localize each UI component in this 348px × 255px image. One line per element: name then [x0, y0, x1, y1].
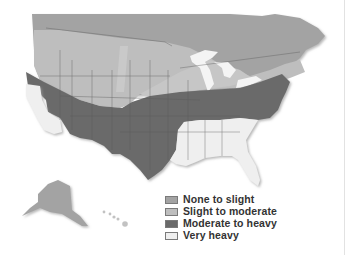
region-southeast: [170, 118, 260, 186]
map-legend: None to slight Slight to moderate Modera…: [165, 194, 277, 242]
legend-swatch: [165, 232, 178, 240]
frame-border: [344, 0, 345, 255]
legend-item-moderate-to-heavy: Moderate to heavy: [165, 218, 277, 229]
legend-item-none-to-slight: None to slight: [165, 194, 277, 205]
legend-item-slight-to-moderate: Slight to moderate: [165, 206, 277, 217]
legend-label: Slight to moderate: [183, 206, 277, 217]
legend-label: Very heavy: [183, 230, 239, 241]
legend-swatch: [165, 208, 178, 216]
legend-label: Moderate to heavy: [183, 218, 277, 229]
region-alaska: [22, 180, 88, 226]
legend-label: None to slight: [183, 194, 254, 205]
legend-item-very-heavy: Very heavy: [165, 230, 277, 241]
legend-swatch: [165, 220, 178, 228]
region-hawaii: [103, 211, 128, 227]
legend-swatch: [165, 196, 178, 204]
